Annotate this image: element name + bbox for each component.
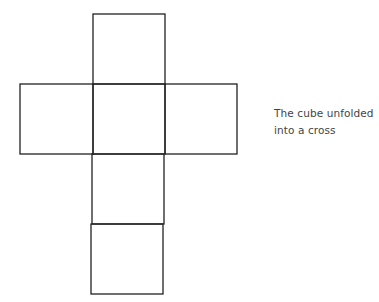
face-left [20, 84, 93, 154]
face-center [93, 84, 165, 154]
cube-net-diagram [0, 0, 379, 302]
face-top [93, 14, 165, 84]
face-lower [92, 154, 164, 224]
face-right [165, 84, 237, 154]
face-bottom [91, 224, 163, 294]
caption-line-2: into a cross [274, 122, 379, 139]
caption-line-1: The cube unfolded [274, 105, 379, 122]
caption: The cube unfolded into a cross [274, 105, 379, 139]
